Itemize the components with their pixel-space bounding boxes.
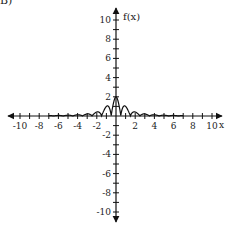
x-axis-label: x: [219, 120, 224, 130]
svg-text:-2: -2: [92, 121, 101, 131]
svg-text:10: 10: [206, 121, 218, 131]
svg-text:-6: -6: [54, 121, 63, 131]
function-graph: -10-8-6-4-2246810 -10-8-6-4-2246810 x f(…: [0, 0, 229, 229]
svg-text:2: 2: [105, 92, 111, 102]
svg-text:-4: -4: [73, 121, 82, 131]
svg-text:-10: -10: [13, 121, 28, 131]
svg-text:10: 10: [100, 15, 112, 25]
y-axis-label: f(x): [123, 11, 140, 22]
svg-text:4: 4: [105, 73, 111, 83]
svg-text:6: 6: [105, 53, 111, 63]
svg-text:8: 8: [190, 121, 196, 131]
svg-text:-10: -10: [97, 207, 112, 217]
svg-text:6: 6: [171, 121, 177, 131]
svg-text:4: 4: [152, 121, 158, 131]
svg-text:-6: -6: [102, 169, 111, 179]
svg-text:8: 8: [105, 34, 111, 44]
svg-text:-8: -8: [102, 188, 111, 198]
svg-text:-8: -8: [35, 121, 44, 131]
svg-text:-2: -2: [102, 130, 111, 140]
svg-text:-4: -4: [102, 149, 111, 159]
svg-text:2: 2: [132, 121, 138, 131]
